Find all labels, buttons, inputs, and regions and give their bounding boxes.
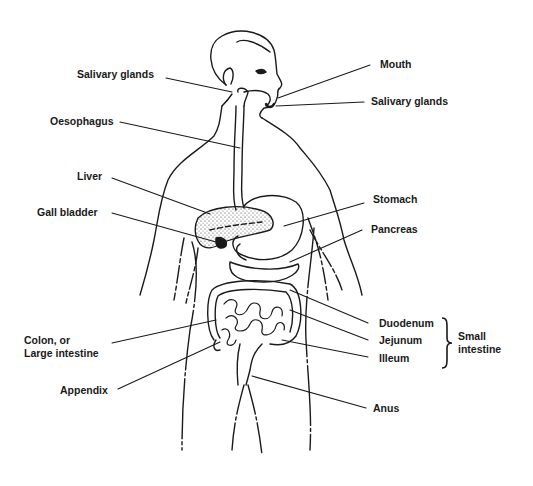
label-stomach: Stomach <box>373 193 417 206</box>
label-salivary-glands-right: Salivary glands <box>371 95 448 108</box>
label-duodenum: Duodenum <box>379 317 434 330</box>
appendix-shape <box>214 340 220 350</box>
right-brace-icon <box>440 316 454 370</box>
digestive-system-diagram: Salivary glands Oesophagus Liver Gall bl… <box>0 0 533 486</box>
colon-shape <box>208 281 301 345</box>
label-pancreas: Pancreas <box>371 223 418 236</box>
pancreas-shape <box>230 262 299 282</box>
label-oesophagus: Oesophagus <box>50 115 114 128</box>
label-colon: Colon, or Large intestine <box>24 334 99 360</box>
head-outline <box>140 31 362 295</box>
oesophagus-tube <box>234 88 275 210</box>
label-small-intestine: Small intestine <box>458 330 501 356</box>
label-jejunum: Jejunum <box>379 334 422 347</box>
label-salivary-glands-left: Salivary glands <box>77 68 154 81</box>
label-appendix: Appendix <box>60 384 108 397</box>
label-liver: Liver <box>77 170 102 183</box>
gall-bladder-shape <box>216 237 226 248</box>
label-anus: Anus <box>373 402 399 415</box>
label-mouth: Mouth <box>380 58 412 71</box>
label-ileum: Illeum <box>379 352 409 365</box>
label-gall-bladder: Gall bladder <box>37 206 98 219</box>
small-intestine-coils <box>222 300 284 346</box>
